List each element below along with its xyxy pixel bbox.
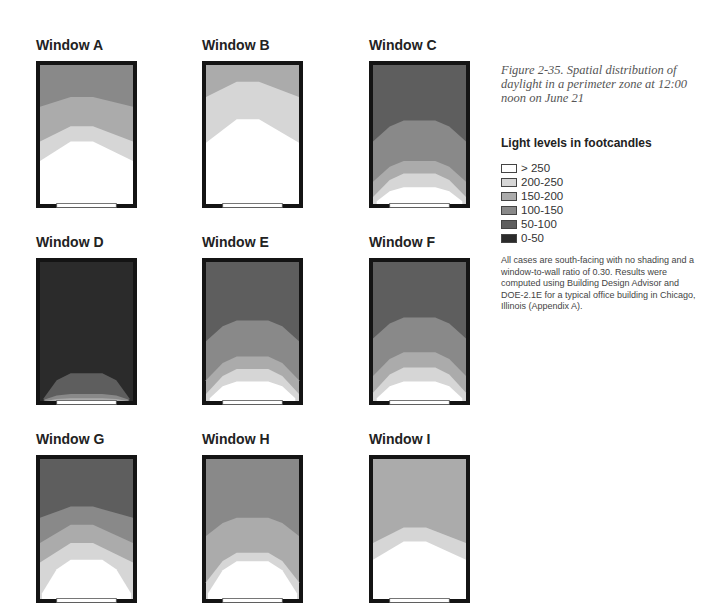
panel-title: Window I	[369, 431, 430, 447]
legend-item: 0-50	[501, 231, 563, 245]
legend-title: Light levels in footcandles	[501, 136, 652, 150]
legend-label: > 250	[521, 162, 550, 174]
window-panel-b: Window B	[202, 61, 303, 208]
figure-note: All cases are south-facing with no shadi…	[501, 255, 701, 313]
window-opening	[57, 204, 117, 208]
window-panel-a: Window A	[36, 61, 137, 208]
panel-title: Window D	[36, 234, 104, 250]
legend-swatch-gt250	[501, 164, 517, 173]
panel-title: Window B	[202, 37, 270, 53]
daylight-plan	[369, 455, 470, 603]
daylight-plan	[202, 258, 303, 405]
window-panel-d: Window D	[36, 258, 137, 405]
legend: > 250 200-250 150-200 100-150 50-100 0-5…	[501, 161, 563, 245]
legend-item: 50-100	[501, 217, 563, 231]
legend-label: 0-50	[521, 232, 544, 244]
figure-caption: Figure 2-35. Spatial distribution of day…	[501, 63, 701, 105]
window-opening	[223, 599, 283, 603]
window-opening	[390, 599, 450, 603]
legend-item: 100-150	[501, 203, 563, 217]
legend-label: 100-150	[521, 204, 563, 216]
window-panel-f: Window F	[369, 258, 470, 405]
window-panel-c: Window C	[369, 61, 470, 208]
window-panel-i: Window I	[369, 455, 470, 603]
window-opening	[223, 401, 283, 405]
daylight-plan	[36, 455, 137, 603]
daylight-plan	[202, 61, 303, 208]
legend-swatch-b50	[501, 220, 517, 229]
legend-swatch-b100	[501, 206, 517, 215]
window-panel-g: Window G	[36, 455, 137, 603]
panel-title: Window H	[202, 431, 270, 447]
daylight-plan	[369, 258, 470, 405]
legend-item: > 250	[501, 161, 563, 175]
legend-swatch-b0	[501, 234, 517, 243]
daylight-plan	[369, 61, 470, 208]
panel-title: Window F	[369, 234, 435, 250]
legend-label: 50-100	[521, 218, 557, 230]
window-panel-h: Window H	[202, 455, 303, 603]
window-opening	[57, 401, 117, 405]
daylight-plan	[36, 258, 137, 405]
legend-swatch-b200	[501, 178, 517, 187]
window-panel-e: Window E	[202, 258, 303, 405]
panel-title: Window G	[36, 431, 104, 447]
daylight-plan	[202, 455, 303, 603]
window-opening	[390, 204, 450, 208]
daylight-plan	[36, 61, 137, 208]
legend-swatch-b150	[501, 192, 517, 201]
panel-title: Window C	[369, 37, 437, 53]
legend-label: 150-200	[521, 190, 563, 202]
panel-title: Window A	[36, 37, 103, 53]
window-opening	[57, 599, 117, 603]
panel-title: Window E	[202, 234, 269, 250]
window-opening	[390, 401, 450, 405]
window-opening	[223, 204, 283, 208]
legend-item: 150-200	[501, 189, 563, 203]
legend-label: 200-250	[521, 176, 563, 188]
legend-item: 200-250	[501, 175, 563, 189]
